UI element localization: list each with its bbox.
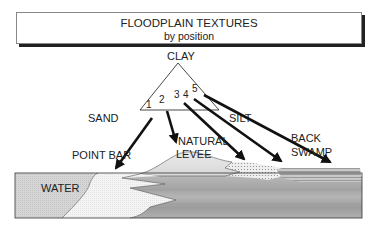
- water-label: WATER: [41, 182, 80, 194]
- arrow-2-natural-levee: [167, 111, 176, 142]
- position-1: 1: [146, 99, 152, 110]
- natural-levee-label-2: LEVEE: [176, 148, 211, 160]
- position-3: 3: [174, 89, 180, 100]
- natural-levee-label-1: NATURAL: [178, 135, 229, 147]
- clay-label: CLAY: [167, 50, 196, 62]
- position-2: 2: [159, 94, 165, 105]
- back-swamp-label-1: BACK: [291, 132, 322, 144]
- sand-label: SAND: [88, 112, 119, 124]
- floodplain-diagram: CLAY SAND SILT 1 2 3 4 5 POINT BAR NATUR…: [0, 0, 375, 230]
- texture-triangle: [140, 63, 219, 110]
- position-4: 4: [183, 89, 189, 100]
- position-5: 5: [192, 83, 198, 94]
- back-swamp-label-2: SWAMP: [291, 146, 332, 158]
- point-bar-label: POINT BAR: [72, 149, 131, 161]
